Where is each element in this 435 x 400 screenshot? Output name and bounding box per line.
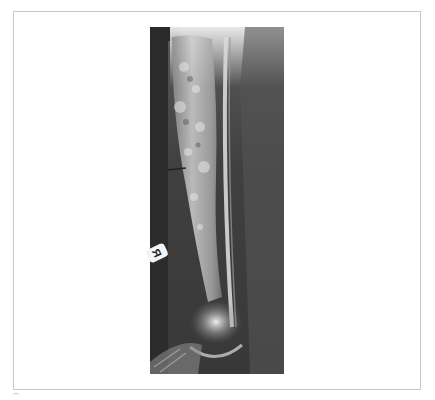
corner-mark bbox=[12, 393, 20, 398]
xray-image bbox=[150, 27, 284, 374]
